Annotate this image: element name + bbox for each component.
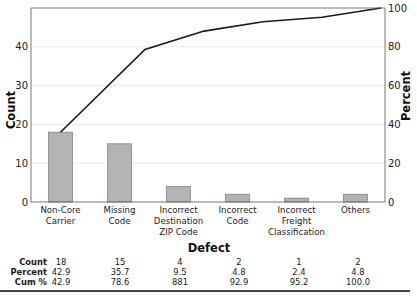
cell: 2.4 bbox=[274, 267, 324, 277]
right-tick-label: 80 bbox=[388, 41, 401, 52]
category-label: IncorrectCode bbox=[218, 205, 257, 226]
category-label: Others bbox=[341, 205, 370, 215]
plot-frame bbox=[31, 8, 385, 202]
left-tick-label: 40 bbox=[15, 41, 28, 52]
cell: 15 bbox=[95, 257, 145, 267]
pareto-summary-table: Count 18 15 4 2 1 2 Percent 42.9 35.7 9.… bbox=[0, 257, 417, 287]
cell: 2 bbox=[333, 257, 383, 267]
category-label: Non-CoreCarrier bbox=[40, 205, 80, 226]
table-row-cum-percent: Cum % 42.9 78.6 881 92.9 95.2 100.0 bbox=[0, 277, 417, 287]
cell: 42.9 bbox=[36, 267, 86, 277]
cell: 881 bbox=[155, 277, 205, 287]
left-tick-label: 0 bbox=[22, 197, 28, 208]
pareto-chart: 010203040 020406080100 Non-CoreCarrierMi… bbox=[0, 0, 417, 255]
cell: 95.2 bbox=[274, 277, 324, 287]
x-axis-title: Defect bbox=[188, 241, 231, 255]
cell: 92.9 bbox=[214, 277, 264, 287]
cell: 1 bbox=[274, 257, 324, 267]
cell: 42.9 bbox=[36, 277, 86, 287]
right-tick-label: 100 bbox=[388, 3, 407, 14]
bar bbox=[285, 198, 309, 202]
cell: 4 bbox=[155, 257, 205, 267]
table-row-percent: Percent 42.9 35.7 9.5 4.8 2.4 4.8 bbox=[0, 267, 417, 277]
right-tick-label: 0 bbox=[388, 197, 394, 208]
category-labels: Non-CoreCarrierMissingCodeIncorrectDesti… bbox=[40, 205, 370, 237]
left-tick-label: 10 bbox=[15, 158, 28, 169]
bar bbox=[344, 194, 368, 202]
cell: 4.8 bbox=[214, 267, 264, 277]
cell: 78.6 bbox=[95, 277, 145, 287]
bar bbox=[226, 194, 250, 202]
bar bbox=[108, 144, 132, 202]
cell: 4.8 bbox=[333, 267, 383, 277]
right-tick-label: 20 bbox=[388, 158, 401, 169]
gridlines bbox=[31, 47, 385, 163]
bar bbox=[167, 186, 191, 202]
left-axis-title: Count bbox=[4, 90, 18, 129]
table-row-count: Count 18 15 4 2 1 2 bbox=[0, 257, 417, 267]
category-label: IncorrectDestinationZIP Code bbox=[154, 205, 203, 237]
category-label: IncorrectFreightClassification bbox=[268, 205, 325, 237]
bottom-divider bbox=[0, 290, 410, 292]
cell: 18 bbox=[36, 257, 86, 267]
left-tick-label: 30 bbox=[15, 80, 28, 91]
right-axis-title: Percent bbox=[399, 70, 413, 121]
cell: 100.0 bbox=[333, 277, 383, 287]
bar bbox=[49, 132, 73, 202]
count-bars bbox=[49, 132, 368, 202]
cell: 2 bbox=[214, 257, 264, 267]
cell: 9.5 bbox=[155, 267, 205, 277]
category-label: MissingCode bbox=[103, 205, 135, 226]
cell: 35.7 bbox=[95, 267, 145, 277]
cumulative-percent-line bbox=[61, 8, 382, 132]
